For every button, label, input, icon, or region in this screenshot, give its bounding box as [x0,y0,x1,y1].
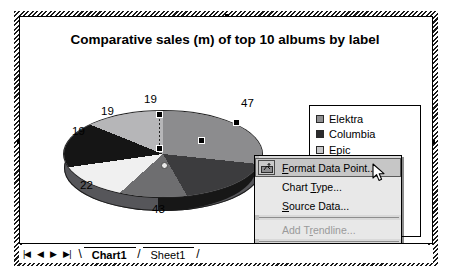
chart-title[interactable]: Comparative sales (m) of top 10 albums b… [50,31,400,49]
menu-separator [259,241,399,242]
data-label[interactable]: 43 [152,203,165,215]
format-data-point-icon [258,160,275,175]
legend-swatch-icon [316,146,324,154]
slice-handle-top[interactable] [156,111,163,118]
sheet-tab-bar[interactable]: |◀ ◀ ▶ ▶| \ Chart1 / Sheet1 / [19,245,433,263]
last-sheet-icon[interactable]: ▶| [63,250,70,259]
data-label[interactable]: 19 [144,93,157,105]
menu-item-label: Chart Type... [282,181,342,193]
next-sheet-icon[interactable]: ▶ [50,250,56,259]
mouse-cursor-icon [372,163,386,183]
pie-chart[interactable]: 19 19 19 47 22 43 [58,99,273,219]
sheet-tab-sheet1[interactable]: Sheet1 [143,247,195,262]
menu-item-label: Source Data... [282,200,349,212]
slice-handle-mid[interactable] [198,137,205,144]
data-label[interactable]: 22 [80,179,93,191]
tab-divider-right: / [194,247,201,261]
chart-area[interactable]: Comparative sales (m) of top 10 albums b… [19,16,433,244]
menu-item-add-trendline: Add Trendline... [255,220,401,239]
menu-separator [259,217,399,218]
legend-item-elektra[interactable]: Elektra [316,111,420,127]
legend-label: Columbia [329,128,375,140]
sheet-nav-buttons[interactable]: |◀ ◀ ▶ ▶| [19,250,77,259]
data-label[interactable]: 47 [241,97,254,109]
data-label[interactable]: 19 [72,125,85,137]
legend-item-columbia[interactable]: Columbia [316,127,420,143]
menu-item-label: Format Data Point... [282,162,376,174]
prev-sheet-icon[interactable]: ◀ [37,250,43,259]
tab-divider-mid: / [136,247,143,261]
sheet-tab-chart1[interactable]: Chart1 [84,247,136,262]
pie-center [161,162,168,169]
sheet-tabs[interactable]: \ Chart1 / Sheet1 / [77,247,202,262]
data-label[interactable]: 19 [101,105,114,117]
legend-label: Elektra [329,113,363,125]
menu-item-source-data[interactable]: Source Data... [255,196,401,215]
slice-handle-center[interactable] [156,145,163,152]
slice-handle-outer[interactable] [233,119,240,126]
first-sheet-icon[interactable]: |◀ [23,250,30,259]
legend-swatch-icon [316,115,324,123]
legend-label: Epic [329,144,350,156]
legend-swatch-icon [316,130,324,138]
excel-chart-sheet-screen: Comparative sales (m) of top 10 albums b… [0,0,450,277]
menu-item-label: Add Trendline... [282,224,356,236]
tab-divider-left: \ [77,247,84,261]
